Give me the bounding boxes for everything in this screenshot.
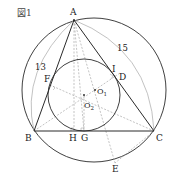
label-h: H [69,133,77,143]
figure-title: 図1 [17,8,32,18]
length-ac: 15 [117,43,128,53]
label-c: C [156,133,163,143]
line-ce [115,131,154,163]
line-ag [74,20,84,131]
label-d: D [119,72,126,82]
length-ab: 13 [35,62,46,72]
center-o1-dot [94,89,96,91]
triangle-abc [34,20,154,131]
label-b: B [25,133,32,143]
circumcircle [22,18,166,162]
label-o2: O2 [84,101,94,111]
label-e: E [112,164,119,174]
label-a: A [69,7,77,17]
helper-lines [34,20,154,163]
label-o1: O1 [97,87,107,97]
geometry-diagram: 図1 A B C D E F G H I O1 O2 13 15 [0,0,175,187]
center-o2-dot [83,94,85,96]
label-f: F [44,74,50,84]
label-i: I [112,64,116,74]
label-g: G [81,133,88,143]
vertex-a-dot [73,19,75,21]
